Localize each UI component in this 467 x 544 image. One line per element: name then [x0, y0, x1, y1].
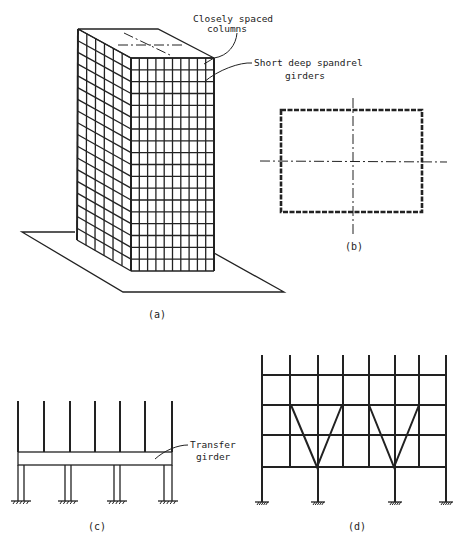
- lower-columns: [11, 465, 178, 504]
- leader-columns: [214, 33, 237, 58]
- building-side-face: [77, 29, 131, 271]
- label-columns: columns: [207, 23, 247, 34]
- panel-a-building: Closely spaced columns Short deep spandr…: [22, 13, 363, 320]
- label-short-deep-spandrel: Short deep spandrel: [254, 57, 363, 68]
- base-columns: [255, 467, 453, 505]
- leader-spandrel: [204, 63, 252, 82]
- label-transfer: Transfer: [190, 439, 236, 450]
- caption-d: (d): [348, 521, 366, 532]
- frame-grid: [262, 355, 446, 467]
- panel-b-plan: (b): [260, 98, 447, 252]
- label-girder: girder: [196, 451, 231, 462]
- label-girders: girders: [285, 70, 325, 81]
- upper-columns: [18, 401, 172, 452]
- building-front-face: [131, 58, 214, 271]
- plan-centerline-horizontal: [260, 161, 447, 162]
- ground-plane: [22, 232, 284, 292]
- caption-c: (c): [88, 521, 106, 532]
- transfer-girder: [18, 452, 172, 465]
- panel-d-braced-frame: (d): [255, 355, 453, 532]
- panel-c-transfer-girder: Transfer girder (c): [11, 401, 236, 532]
- caption-a: (a): [148, 309, 166, 320]
- caption-b: (b): [345, 241, 363, 252]
- structural-diagram: Closely spaced columns Short deep spandr…: [0, 0, 467, 544]
